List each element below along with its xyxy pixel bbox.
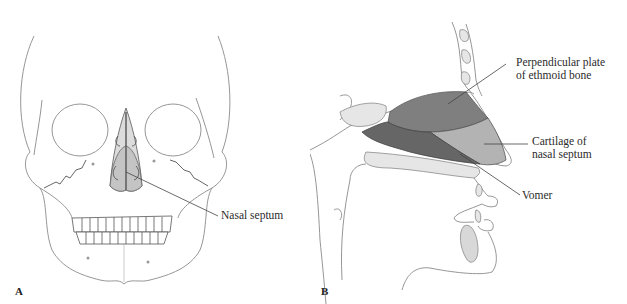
panel-b-sagittal-section: Perpendicular plate of ethmoid bone Cart… bbox=[310, 0, 627, 304]
panel-a-skull-anterior: Nasal septum A bbox=[0, 0, 310, 304]
label-cartilage-nasal-septum: Cartilage of nasal septum bbox=[532, 135, 592, 161]
label-cartilage-line2: nasal septum bbox=[532, 148, 592, 161]
label-perpendicular-plate-line2: of ethmoid bone bbox=[516, 69, 605, 82]
label-perpendicular-plate: Perpendicular plate of ethmoid bone bbox=[516, 56, 605, 82]
label-perpendicular-plate-line1: Perpendicular plate bbox=[516, 56, 605, 69]
label-cartilage-line1: Cartilage of bbox=[532, 135, 592, 148]
label-vomer: Vomer bbox=[522, 189, 552, 202]
skull-anterior-illustration bbox=[0, 0, 310, 304]
panel-letter-a: A bbox=[15, 285, 23, 297]
panel-letter-b: B bbox=[321, 285, 328, 297]
label-nasal-septum: Nasal septum bbox=[221, 209, 283, 222]
